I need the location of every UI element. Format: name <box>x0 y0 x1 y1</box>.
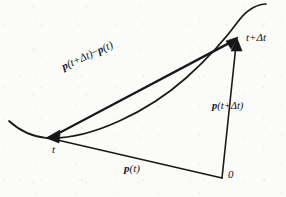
p-t-dt-arg: (t+Δt) <box>217 100 243 111</box>
label-point-t: t <box>52 144 55 155</box>
label-position-vector-p-t-dt: p(t+Δt) <box>212 101 243 112</box>
label-point-t-plus-dt: t+Δt <box>246 32 266 43</box>
parametric-curve <box>9 4 266 138</box>
position-vector-p-t-dt-line <box>222 45 236 178</box>
figure-container: p(t+Δt)−p(t) p(t+Δt) p(t) t t+Δt 0 <box>0 0 286 197</box>
label-position-vector-p-t: p(t) <box>124 163 140 174</box>
vector-diagram-canvas <box>0 0 286 197</box>
label-origin: 0 <box>228 169 234 180</box>
p-t-arg: (t) <box>130 162 140 174</box>
